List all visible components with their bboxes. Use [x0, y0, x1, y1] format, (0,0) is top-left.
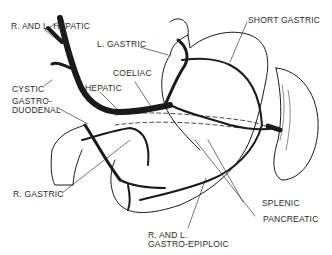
cystic-artery — [52, 63, 70, 68]
label-hepatic: HEPATIC — [85, 84, 122, 93]
label-short-gastric: SHORT GASTRIC — [248, 16, 320, 25]
pancreas-outline — [115, 113, 272, 130]
leader-cystic — [44, 80, 52, 86]
spleen-outline — [274, 68, 318, 180]
leader-short-gastric — [230, 22, 247, 62]
left-gastric-artery — [165, 40, 187, 105]
label-coeliac: COELIAC — [113, 69, 152, 78]
gastro-epiploic-branch — [128, 185, 130, 210]
label-cystic: CYSTIC — [12, 85, 44, 94]
duodenum-outline — [51, 125, 85, 185]
leader-gastro-duodenal — [58, 108, 88, 124]
leader-coeliac — [135, 82, 152, 108]
spleen-hilum-lines — [280, 85, 290, 150]
leader-pancreatic — [195, 140, 255, 216]
label-pancreatic: PANCREATIC — [263, 215, 319, 224]
hepatic-artery — [60, 18, 170, 112]
coeliac-artery-diagram: R. AND L. HEPATIC L. GASTRIC SHORT GASTR… — [0, 0, 332, 255]
label-r-and-l-hepatic: R. AND L. HEPATIC — [11, 22, 90, 31]
gastro-epiploic-right — [120, 180, 165, 188]
label-gastro-epiploic-line2: GASTRO-EPIPLOIC — [148, 240, 229, 249]
label-gastro-duodenal-line2: DUODENAL — [12, 106, 61, 115]
label-r-gastric: R. GASTRIC — [13, 190, 64, 199]
leader-r-gastric — [62, 140, 130, 193]
leader-splenic — [208, 140, 243, 202]
label-l-gastric: L. GASTRIC — [97, 40, 146, 49]
label-splenic: SPLENIC — [262, 199, 300, 208]
